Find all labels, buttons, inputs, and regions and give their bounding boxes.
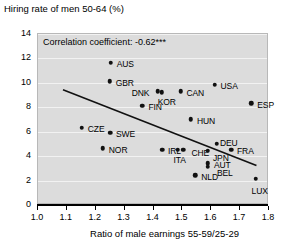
x-axis-title: Ratio of male earnings 55-59/25-29 bbox=[0, 228, 281, 239]
plot-area bbox=[37, 33, 268, 204]
y-tick-label: 4 bbox=[0, 150, 31, 160]
y-tick-label: 10 bbox=[0, 77, 31, 87]
x-tick-label: 1.5 bbox=[175, 212, 188, 222]
x-tick-mark bbox=[210, 206, 211, 210]
gridline bbox=[38, 58, 267, 59]
y-tick-label: 14 bbox=[0, 28, 31, 38]
x-tick-mark bbox=[66, 206, 67, 210]
data-point bbox=[160, 147, 165, 152]
x-tick-mark bbox=[37, 206, 38, 210]
data-point-label: NOR bbox=[109, 145, 128, 155]
y-tick-label: 0 bbox=[0, 199, 31, 209]
data-point-label: HUN bbox=[197, 116, 215, 126]
gridline bbox=[38, 132, 267, 133]
data-point-label: CAN bbox=[187, 88, 205, 98]
data-point bbox=[159, 90, 164, 95]
x-tick-label: 1.6 bbox=[204, 212, 217, 222]
x-tick-mark bbox=[239, 206, 240, 210]
data-point bbox=[249, 101, 254, 106]
data-point-label: FRA bbox=[237, 146, 254, 156]
data-point bbox=[229, 147, 234, 152]
y-tick-label: 12 bbox=[0, 52, 31, 62]
gridline bbox=[38, 156, 267, 157]
x-tick-label: 1.8 bbox=[262, 212, 275, 222]
x-tick-label: 1.3 bbox=[117, 212, 130, 222]
page-title: Hiring rate of men 50-64 (%) bbox=[4, 3, 124, 14]
data-point-label: DNK bbox=[132, 88, 150, 98]
data-point bbox=[212, 83, 217, 88]
data-point bbox=[189, 117, 194, 122]
data-point-label: ESP bbox=[257, 100, 274, 110]
x-tick-mark bbox=[95, 206, 96, 210]
data-point-label: FIN bbox=[148, 102, 161, 112]
y-tick-label: 8 bbox=[0, 101, 31, 111]
correlation-annotation: Correlation coefficient: -0.62*** bbox=[43, 37, 166, 47]
data-point bbox=[253, 177, 258, 182]
data-point bbox=[140, 103, 145, 108]
data-point bbox=[108, 79, 113, 84]
data-point bbox=[108, 130, 113, 135]
gridline bbox=[38, 34, 267, 35]
data-point-label: AUS bbox=[117, 59, 134, 69]
x-tick-label: 1.4 bbox=[146, 212, 159, 222]
data-point-label: GBR bbox=[116, 78, 134, 88]
data-point bbox=[108, 61, 113, 66]
data-point bbox=[101, 146, 106, 151]
data-point bbox=[206, 149, 211, 154]
data-point bbox=[175, 147, 180, 152]
y-tick-label: 6 bbox=[0, 126, 31, 136]
data-point bbox=[181, 147, 186, 152]
data-point-label: DEU bbox=[220, 138, 238, 148]
data-point-label: ITA bbox=[174, 155, 186, 165]
x-tick-label: 1.0 bbox=[31, 212, 44, 222]
x-tick-mark bbox=[124, 206, 125, 210]
data-point bbox=[178, 89, 183, 94]
data-point-label: NLD bbox=[201, 172, 218, 182]
x-tick-mark bbox=[181, 206, 182, 210]
data-point-label: SWE bbox=[116, 129, 135, 139]
chart-container: Hiring rate of men 50-64 (%) Correlation… bbox=[0, 0, 281, 249]
x-tick-label: 1.2 bbox=[88, 212, 101, 222]
data-point-label: CZE bbox=[88, 124, 105, 134]
x-tick-label: 1.7 bbox=[233, 212, 246, 222]
data-point-label: LUX bbox=[252, 186, 268, 196]
data-point bbox=[193, 173, 198, 178]
data-point-label: BEL bbox=[217, 168, 233, 178]
x-tick-mark bbox=[268, 206, 269, 210]
gridline bbox=[38, 181, 267, 182]
data-point bbox=[206, 164, 211, 169]
data-point bbox=[215, 141, 220, 146]
data-point bbox=[80, 125, 85, 130]
x-tick-mark bbox=[153, 206, 154, 210]
y-tick-label: 2 bbox=[0, 175, 31, 185]
x-tick-label: 1.1 bbox=[60, 212, 73, 222]
data-point-label: USA bbox=[221, 81, 238, 91]
